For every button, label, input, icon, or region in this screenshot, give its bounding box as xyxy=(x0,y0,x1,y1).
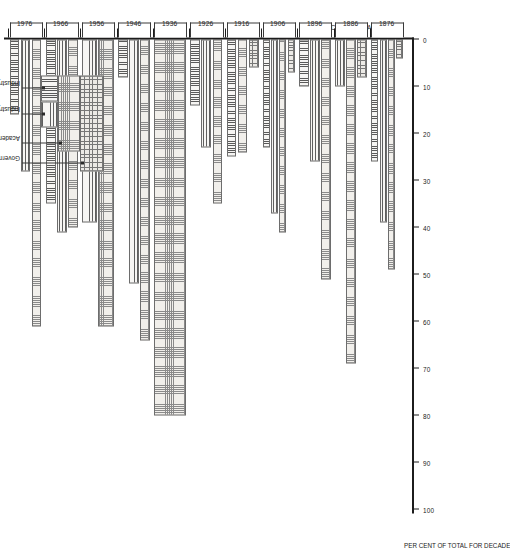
value-tick-20 xyxy=(412,132,419,133)
bar-group xyxy=(261,39,297,509)
legend-leader-line xyxy=(22,113,43,114)
value-tick-80 xyxy=(412,414,419,415)
value-label-10: 10 xyxy=(423,83,431,90)
legend-label-acad: Academe only xyxy=(0,134,20,141)
legend-label-entr: Industry (entrepreneurs) xyxy=(0,79,20,86)
legend-leader-line xyxy=(22,142,60,143)
bar-entr-1896 xyxy=(299,39,309,86)
value-label-90: 90 xyxy=(423,459,431,466)
category-label-1956: 1956 xyxy=(89,19,104,26)
bar-entr-1946 xyxy=(118,39,128,77)
x-axis-title: PER CENT OF TOTAL FOR DECADE xyxy=(404,541,510,550)
category-label-1896: 1896 xyxy=(307,19,322,26)
value-label-80: 80 xyxy=(423,412,431,419)
bar-acad-1876 xyxy=(388,39,395,269)
legend-leader-line xyxy=(22,87,43,88)
value-tick-0 xyxy=(412,38,419,39)
legend-label-gov: Government xyxy=(0,154,20,161)
value-tick-60 xyxy=(412,320,419,321)
value-label-60: 60 xyxy=(423,318,431,325)
bar-group xyxy=(117,39,153,509)
category-label-1926: 1926 xyxy=(198,19,213,26)
bar-corp-1886 xyxy=(335,39,345,86)
bar-corp-1876 xyxy=(380,39,387,222)
bar-corp-1926 xyxy=(201,39,211,147)
value-label-20: 20 xyxy=(423,130,431,137)
bar-group xyxy=(334,39,370,509)
bar-corp-1946 xyxy=(129,39,139,283)
category-label-1906: 1906 xyxy=(270,19,285,26)
bar-acad-1906 xyxy=(279,39,286,232)
legend-swatch-acad xyxy=(58,75,80,151)
legend-leader-dot xyxy=(42,112,45,115)
value-tick-30 xyxy=(412,179,419,180)
bar-entr-1876 xyxy=(371,39,378,161)
bar-acad-1936 xyxy=(154,39,186,415)
bar-gov-1916 xyxy=(249,39,259,67)
legend-leader-dot xyxy=(42,86,45,89)
value-label-40: 40 xyxy=(423,224,431,231)
bar-group xyxy=(225,39,261,509)
legend-leader-line xyxy=(22,162,82,163)
value-tick-90 xyxy=(412,461,419,462)
value-tick-50 xyxy=(412,273,419,274)
value-label-70: 70 xyxy=(423,365,431,372)
value-tick-70 xyxy=(412,367,419,368)
legend-leader-dot xyxy=(59,141,62,144)
value-tick-10 xyxy=(412,85,419,86)
legend-label-corp: Industry (corporate employees) xyxy=(0,105,20,112)
value-label-0: 0 xyxy=(423,36,427,43)
legend-leader-dot xyxy=(81,161,84,164)
value-label-50: 50 xyxy=(423,271,431,278)
bar-gov-1886 xyxy=(357,39,367,77)
bar-entr-1926 xyxy=(190,39,200,105)
legend-swatch-gov xyxy=(80,75,104,171)
value-axis-line xyxy=(412,37,414,513)
category-label-1936: 1936 xyxy=(162,19,177,26)
bar-group xyxy=(370,39,406,509)
bar-corp-1896 xyxy=(310,39,320,161)
bar-gov-1906 xyxy=(288,39,295,72)
bar-acad-1916 xyxy=(238,39,248,152)
category-label-1916: 1916 xyxy=(234,19,249,26)
bar-group xyxy=(153,39,189,509)
bar-gov-1876 xyxy=(396,39,403,58)
bar-group xyxy=(189,39,225,509)
value-label-30: 30 xyxy=(423,177,431,184)
bar-acad-1946 xyxy=(140,39,150,340)
bar-acad-1926 xyxy=(213,39,223,204)
bar-corp-1906 xyxy=(271,39,278,213)
category-label-1886: 1886 xyxy=(343,19,358,26)
category-label-1876: 1876 xyxy=(379,19,394,26)
bar-acad-1896 xyxy=(321,39,331,279)
category-label-1966: 1966 xyxy=(53,19,68,26)
bar-entr-1916 xyxy=(227,39,237,157)
value-label-100: 100 xyxy=(423,506,434,513)
value-tick-100 xyxy=(412,508,419,509)
bar-acad-1886 xyxy=(346,39,356,363)
value-tick-40 xyxy=(412,226,419,227)
category-label-1976: 1976 xyxy=(17,19,32,26)
category-label-1946: 1946 xyxy=(126,19,141,26)
legend: GovernmentAcademe onlyIndustry (corporat… xyxy=(8,21,118,171)
bar-entr-1906 xyxy=(263,39,270,147)
bar-group xyxy=(297,39,333,509)
